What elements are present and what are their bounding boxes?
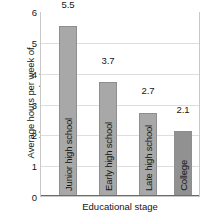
y-tick-label: 3 — [25, 99, 37, 110]
bar-value-label: 2.7 — [141, 85, 154, 96]
y-axis-tick-labels: 6 5 4 3 2 1 0 — [24, 0, 37, 214]
bar-category-label: Early high school — [103, 122, 114, 191]
y-tick-label: 0 — [25, 192, 37, 203]
bar-value-label: 3.7 — [101, 55, 114, 66]
bar-category-label: Late high school — [143, 125, 154, 191]
bar-category-label: College — [178, 160, 189, 191]
bar-series: Junior high school 5.5 Early high school… — [41, 12, 199, 196]
plot-area: Junior high school 5.5 Early high school… — [40, 12, 200, 197]
y-tick-label: 5 — [25, 37, 37, 48]
bar-chart: Average hours per week of video game pla… — [0, 0, 209, 214]
y-tick-label: 6 — [25, 7, 37, 18]
bar-value-label: 5.5 — [61, 0, 74, 10]
bar-value-label: 2.1 — [176, 104, 189, 115]
y-tick-label: 2 — [25, 130, 37, 141]
bar-junior-high-school[interactable]: Junior high school — [59, 26, 77, 196]
bar-early-high-school[interactable]: Early high school — [99, 82, 117, 196]
bar-college[interactable]: College — [174, 131, 192, 196]
x-axis-title: Educational stage — [40, 201, 200, 212]
bar-category-label: Junior high school — [63, 118, 74, 191]
x-axis-baseline — [41, 195, 199, 196]
y-tick-label: 4 — [25, 68, 37, 79]
bar-late-high-school[interactable]: Late high school — [139, 113, 157, 196]
y-tick-label: 1 — [25, 161, 37, 172]
